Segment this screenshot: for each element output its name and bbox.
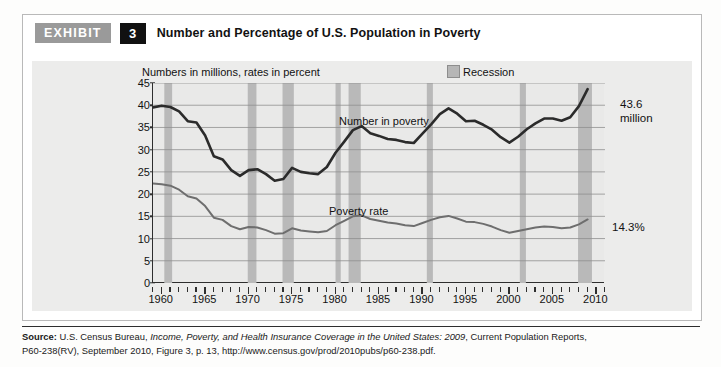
recession-band xyxy=(336,83,341,283)
x-axis-minor-tick xyxy=(474,287,475,292)
recession-band xyxy=(520,83,526,283)
x-axis-minor-tick xyxy=(265,287,266,292)
x-axis-minor-tick xyxy=(517,287,518,292)
x-axis-minor-tick xyxy=(534,287,535,292)
x-axis-tick-label: 1990 xyxy=(409,293,433,305)
recession-band xyxy=(578,83,592,283)
series-label-poverty-rate: Poverty rate xyxy=(329,205,388,217)
legend-item-recession: Recession xyxy=(463,66,514,78)
x-axis-tick-label: 2010 xyxy=(583,293,607,305)
x-axis-minor-tick xyxy=(178,287,179,292)
x-axis-minor-tick xyxy=(456,287,457,292)
annotation-number-value: 43.6 xyxy=(620,97,653,111)
x-axis-minor-tick xyxy=(430,287,431,292)
x-axis-minor-tick xyxy=(239,287,240,292)
chart-svg xyxy=(153,83,605,283)
y-axis-tick-label: 40 xyxy=(128,99,150,111)
x-axis-tick-label: 2005 xyxy=(540,293,564,305)
x-axis-minor-tick xyxy=(395,287,396,292)
recession-band xyxy=(349,83,361,283)
x-axis-minor-tick xyxy=(404,287,405,292)
y-axis-tick-label: 35 xyxy=(128,121,150,133)
annotation-number-unit: million xyxy=(620,111,653,125)
y-axis-tick-label: 0 xyxy=(128,277,150,289)
exhibit-card: EXHIBIT 3 Number and Percentage of U.S. … xyxy=(22,14,702,321)
chart-subtitle: Numbers in millions, rates in percent xyxy=(142,66,320,78)
source-line2: P60-238(RV), September 2010, Figure 3, p… xyxy=(22,345,436,356)
x-axis-minor-tick xyxy=(439,287,440,292)
x-axis-tick-label: 1960 xyxy=(148,293,172,305)
x-axis-minor-tick xyxy=(491,287,492,292)
x-axis-minor-tick xyxy=(317,287,318,292)
x-axis-minor-tick xyxy=(300,287,301,292)
source-line1-b: , Current Population Reports, xyxy=(465,331,586,342)
source-note: Source: U.S. Census Bureau, Income, Pove… xyxy=(22,330,712,357)
y-axis-tick-label: 20 xyxy=(128,188,150,200)
x-axis-minor-tick xyxy=(543,287,544,292)
plot-area: Number in povertyPoverty rate xyxy=(152,83,604,283)
chart-legend: Recession xyxy=(447,65,514,78)
x-axis-minor-tick xyxy=(352,287,353,292)
x-axis-tick-label: 1970 xyxy=(235,293,259,305)
x-axis-minor-tick xyxy=(387,287,388,292)
x-axis-minor-tick xyxy=(152,287,153,292)
x-axis: 1960196519701975198019851990199520002005… xyxy=(152,287,604,309)
x-axis-minor-tick xyxy=(587,287,588,292)
x-axis-minor-tick xyxy=(369,287,370,292)
x-axis-minor-tick xyxy=(604,287,605,292)
x-axis-tick-label: 1965 xyxy=(192,293,216,305)
y-axis-tick-label: 15 xyxy=(128,210,150,222)
x-axis-minor-tick xyxy=(413,287,414,292)
source-lead: Source: xyxy=(22,331,57,342)
source-divider xyxy=(22,326,700,327)
y-axis-tick-label: 45 xyxy=(128,77,150,89)
x-axis-minor-tick xyxy=(578,287,579,292)
x-axis-minor-tick xyxy=(282,287,283,292)
x-axis-tick-label: 1975 xyxy=(279,293,303,305)
source-line1-a: U.S. Census Bureau, xyxy=(57,331,150,342)
x-axis-minor-tick xyxy=(482,287,483,292)
y-axis-tick-label: 30 xyxy=(128,144,150,156)
exhibit-header: EXHIBIT 3 Number and Percentage of U.S. … xyxy=(23,15,701,51)
x-axis-minor-tick xyxy=(222,287,223,292)
source-line1-italic: Income, Poverty, and Health Insurance Co… xyxy=(150,331,465,342)
x-axis-minor-tick xyxy=(195,287,196,292)
recession-band xyxy=(427,83,433,283)
x-axis-minor-tick xyxy=(526,287,527,292)
recession-band xyxy=(248,83,257,283)
exhibit-tag: EXHIBIT xyxy=(35,23,111,44)
x-axis-tick-label: 1985 xyxy=(366,293,390,305)
x-axis-tick-label: 2000 xyxy=(496,293,520,305)
x-axis-minor-tick xyxy=(361,287,362,292)
y-axis-tick-label: 25 xyxy=(128,166,150,178)
annotation-poverty-rate: 14.3% xyxy=(612,220,645,234)
page-title: Number and Percentage of U.S. Population… xyxy=(157,26,481,40)
x-axis-minor-tick xyxy=(230,287,231,292)
x-axis-minor-tick xyxy=(274,287,275,292)
exhibit-page: EXHIBIT 3 Number and Percentage of U.S. … xyxy=(0,0,721,367)
x-axis-minor-tick xyxy=(326,287,327,292)
y-axis-tick-label: 5 xyxy=(128,255,150,267)
x-axis-minor-tick xyxy=(256,287,257,292)
x-axis-minor-tick xyxy=(169,287,170,292)
x-axis-minor-tick xyxy=(500,287,501,292)
x-axis-minor-tick xyxy=(343,287,344,292)
chart-panel: Numbers in millions, rates in percent Re… xyxy=(32,61,692,311)
series-label-number-in-poverty: Number in poverty xyxy=(339,115,429,127)
exhibit-number: 3 xyxy=(120,23,146,44)
recession-swatch-icon xyxy=(447,65,460,78)
annotation-number-in-poverty: 43.6 million xyxy=(620,97,653,126)
x-axis-tick-label: 1995 xyxy=(453,293,477,305)
recession-band xyxy=(283,83,294,283)
y-axis-tick-label: 10 xyxy=(128,233,150,245)
x-axis-minor-tick xyxy=(308,287,309,292)
x-axis-minor-tick xyxy=(448,287,449,292)
y-axis: 051015202530354045 xyxy=(124,83,150,283)
x-axis-minor-tick xyxy=(213,287,214,292)
recession-band xyxy=(164,83,172,283)
plot-inner: Number in povertyPoverty rate xyxy=(153,83,604,282)
x-axis-minor-tick xyxy=(187,287,188,292)
x-axis-tick-label: 1980 xyxy=(322,293,346,305)
x-axis-minor-tick xyxy=(569,287,570,292)
x-axis-minor-tick xyxy=(561,287,562,292)
